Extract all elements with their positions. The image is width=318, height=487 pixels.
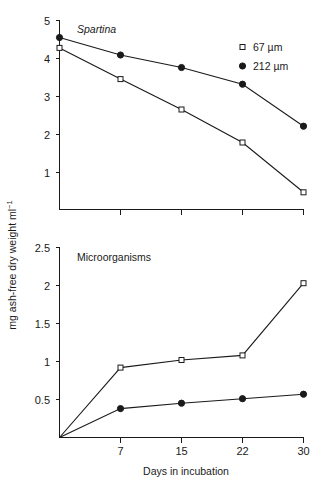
panel-spartina-x-ticks: [121, 210, 304, 215]
y-tick-4: 4: [44, 53, 50, 65]
panel-spartina-title: Spartina: [77, 23, 116, 35]
panel-microorganisms-title: Microorganisms: [77, 251, 151, 263]
legend-marker-filled-circle-icon: [239, 63, 245, 69]
figure-container: mg ash-free dry weight ml−1 5 4 3 2 1: [0, 0, 318, 487]
data-point: [178, 64, 184, 70]
legend-label-212um: 212 µm: [253, 60, 288, 72]
panel-microorganisms: 2.5 2 1.5 1 0.5 7 15 22 30 Days in incub…: [35, 242, 310, 477]
data-point: [240, 353, 245, 358]
data-point: [56, 34, 62, 40]
x-tick-22: 22: [236, 445, 248, 457]
y-tick-1: 1: [44, 167, 50, 179]
svg-text:mg ash-free dry weight ml−1: mg ash-free dry weight ml−1: [5, 200, 18, 329]
data-point: [300, 123, 306, 129]
panel-spartina-y-ticklabels: 5 4 3 2 1: [44, 15, 50, 179]
y-axis-title-exponent: −1: [5, 200, 14, 209]
data-point: [301, 190, 306, 195]
y-tick-1: 1: [44, 356, 50, 368]
panel-spartina: 5 4 3 2 1 Spartina 67 µm 212 µm: [44, 15, 307, 215]
data-point: [118, 77, 123, 82]
y-tick-2: 2: [44, 129, 50, 141]
data-point: [117, 52, 123, 58]
y-tick-3: 3: [44, 91, 50, 103]
y-tick-1p5: 1.5: [35, 318, 50, 330]
data-point: [301, 281, 306, 286]
data-point: [179, 107, 184, 112]
legend-label-67um: 67 µm: [253, 41, 283, 53]
legend: 67 µm 212 µm: [239, 41, 288, 72]
panel-microorganisms-series-67um: [60, 281, 307, 438]
panel-microorganisms-y-ticks: [56, 248, 60, 400]
data-point: [240, 140, 245, 145]
y-axis-title: mg ash-free dry weight ml−1: [5, 200, 18, 329]
data-point: [179, 358, 184, 363]
y-tick-0p5: 0.5: [35, 394, 50, 406]
data-point: [117, 406, 123, 412]
y-axis-title-text: mg ash-free dry weight ml: [6, 209, 18, 330]
x-tick-15: 15: [175, 445, 187, 457]
y-tick-2: 2: [44, 280, 50, 292]
panel-microorganisms-x-ticks: [121, 438, 304, 443]
panel-microorganisms-y-ticklabels: 2.5 2 1.5 1 0.5: [35, 242, 50, 406]
data-point: [178, 400, 184, 406]
data-point: [239, 396, 245, 402]
data-point: [118, 365, 123, 370]
x-tick-7: 7: [117, 445, 123, 457]
legend-marker-open-square-icon: [240, 45, 245, 50]
panel-spartina-y-ticks: [56, 21, 60, 173]
panel-microorganisms-series-212um: [60, 391, 307, 437]
data-point: [300, 391, 306, 397]
y-tick-5: 5: [44, 15, 50, 27]
data-point: [57, 45, 62, 50]
data-point: [239, 81, 245, 87]
x-tick-30: 30: [297, 445, 309, 457]
y-tick-2p5: 2.5: [35, 242, 50, 254]
x-axis-title: Days in incubation: [143, 465, 229, 477]
two-panel-line-chart: mg ash-free dry weight ml−1 5 4 3 2 1: [0, 0, 318, 487]
panel-microorganisms-axes: [60, 248, 304, 438]
panel-microorganisms-x-ticklabels: 7 15 22 30: [117, 445, 309, 457]
